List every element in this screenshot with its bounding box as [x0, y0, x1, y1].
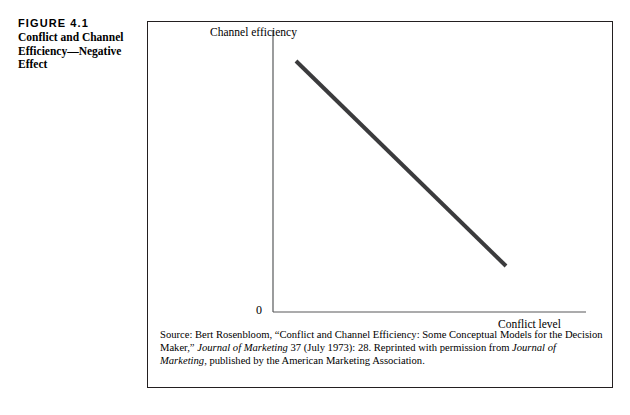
plot-canvas	[148, 22, 614, 322]
source-text-part-2: 37 (July 1973): 28. Reprinted with permi…	[288, 342, 512, 353]
source-journal-title-1: Journal of Marketing	[197, 342, 288, 353]
origin-tick-label: 0	[256, 304, 262, 317]
y-axis-label: Channel efficiency	[210, 26, 297, 39]
figure-number: FIGURE 4.1	[18, 16, 138, 30]
figure-frame: Channel efficiency Conflict level 0 Sour…	[147, 21, 613, 388]
figure-caption-block: FIGURE 4.1 Conflict and Channel Efficien…	[18, 16, 138, 72]
source-text-part-3: , published by the American Marketing As…	[204, 355, 425, 366]
source-note: Source: Bert Rosenbloom, “Conflict and C…	[160, 328, 603, 368]
figure-title: Conflict and Channel Efficiency—Negative…	[18, 31, 138, 72]
efficiency-curve-line	[296, 61, 506, 266]
plot-area: Channel efficiency Conflict level 0	[148, 22, 614, 322]
